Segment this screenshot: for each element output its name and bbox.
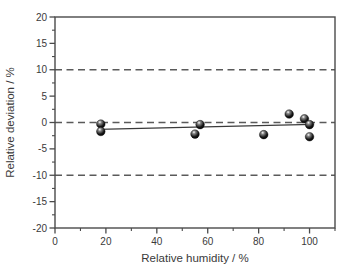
x-tick-label: 100: [301, 236, 318, 247]
y-tick-label: -20: [33, 223, 48, 234]
data-point: [196, 120, 205, 129]
data-point: [259, 130, 268, 139]
x-tick-label: 0: [52, 236, 58, 247]
data-point: [191, 130, 200, 139]
y-tick-label: 20: [36, 12, 48, 23]
y-axis-title: Relative deviation / %: [4, 67, 16, 178]
y-tick-label: -5: [38, 143, 47, 154]
data-point: [305, 132, 314, 141]
data-point: [97, 127, 106, 136]
data-point: [285, 110, 294, 119]
x-axis-title: Relative humidity / %: [141, 252, 248, 264]
data-point: [305, 120, 314, 129]
chart-canvas: 020406080100-20-15-10-505101520 Relative…: [0, 0, 353, 278]
y-tick-label: -10: [33, 170, 48, 181]
x-tick-label: 40: [151, 236, 163, 247]
fit-line-layer: [98, 124, 312, 129]
y-tick-label: 10: [36, 64, 48, 75]
y-tick-label: 5: [41, 91, 47, 102]
x-tick-label: 60: [202, 236, 214, 247]
scatter-chart-figure: 020406080100-20-15-10-505101520 Relative…: [0, 0, 353, 278]
axes-layer: 020406080100-20-15-10-505101520: [33, 12, 335, 248]
y-tick-label: 0: [41, 117, 47, 128]
fit-line: [98, 124, 312, 129]
y-tick-label: 15: [36, 38, 48, 49]
x-tick-label: 80: [253, 236, 265, 247]
y-tick-label: -15: [33, 196, 48, 207]
x-tick-label: 20: [100, 236, 112, 247]
